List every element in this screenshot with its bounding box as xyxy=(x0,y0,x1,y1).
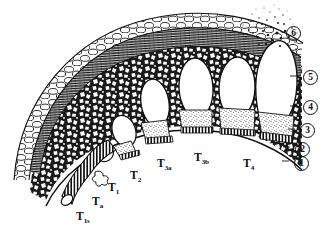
label-subscript: a xyxy=(100,202,103,210)
diagram-artwork xyxy=(0,0,326,234)
callout-layer-2: 2 xyxy=(295,142,310,157)
label-subscript: 2 xyxy=(138,176,141,184)
cavity-label-t-a: Ta xyxy=(92,196,103,208)
cavity-label-t-3a: T3a xyxy=(157,158,171,170)
callout-layer-6: 6 xyxy=(286,26,301,41)
cavity-t3b xyxy=(218,56,256,136)
label-base: T xyxy=(194,151,202,163)
cavity-label-t-4: T4 xyxy=(243,158,254,170)
cavity-label-t-1: T1 xyxy=(108,182,119,194)
label-base: T xyxy=(157,157,165,169)
label-subscript: 1s xyxy=(84,217,90,225)
callout-layer-5: 5 xyxy=(303,70,318,85)
cavity-label-t-3b: T3b xyxy=(194,152,209,164)
cavity-label-t-2: T2 xyxy=(130,170,141,182)
label-subscript: 4 xyxy=(251,164,254,172)
label-base: T xyxy=(243,157,251,169)
histology-figure: T1sTaT1T2T3aT3bT4 654321 xyxy=(0,0,326,234)
cavity-label-t-1s: T1s xyxy=(76,211,90,223)
callout-layer-1: 1 xyxy=(294,156,309,171)
label-subscript: 1 xyxy=(116,188,119,196)
label-base: T xyxy=(76,210,84,222)
cavity-t3a xyxy=(177,57,214,133)
label-subscript: 3b xyxy=(202,158,209,166)
label-base: T xyxy=(130,169,138,181)
callout-layer-4: 4 xyxy=(303,100,318,115)
label-base: T xyxy=(92,195,100,207)
cavity-t4 xyxy=(256,41,297,143)
label-base: T xyxy=(108,181,116,193)
callout-layer-3: 3 xyxy=(300,123,315,138)
label-subscript: 3a xyxy=(165,164,172,172)
